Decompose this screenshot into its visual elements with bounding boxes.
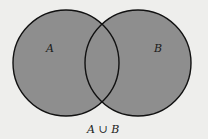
set-b-label: B (153, 42, 162, 55)
diagram-caption: A ∪ B (86, 123, 119, 136)
venn-diagram: A B A ∪ B (0, 0, 208, 139)
set-a-label: A (45, 42, 54, 55)
